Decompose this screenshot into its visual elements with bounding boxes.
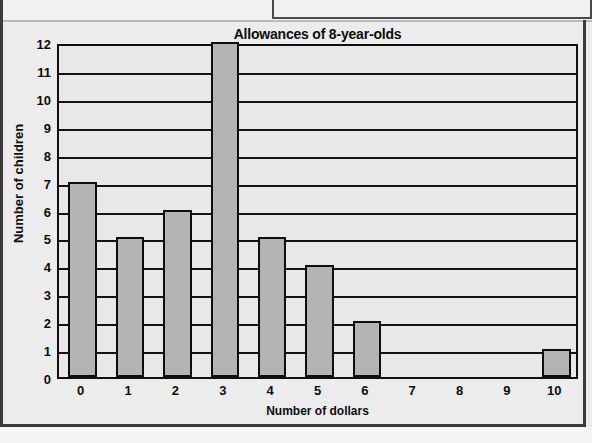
x-axis-tick-labels: 012345678910 <box>57 383 578 403</box>
y-axis-title: Number of children <box>11 94 26 274</box>
bar-5 <box>305 265 333 377</box>
y-tick-label-0: 0 <box>0 372 51 387</box>
x-tick-label-8: 8 <box>456 383 463 398</box>
y-tick-label-6: 6 <box>0 204 51 219</box>
y-tick-label-12: 12 <box>0 37 51 52</box>
y-tick-label-4: 4 <box>0 260 51 275</box>
page-border-top <box>0 20 592 22</box>
bar-10 <box>542 349 570 377</box>
bar-4 <box>258 237 286 377</box>
page-border-right <box>583 20 586 427</box>
bar-3 <box>211 42 239 377</box>
x-tick-label-2: 2 <box>172 383 179 398</box>
bars-layer <box>59 46 576 377</box>
y-tick-label-8: 8 <box>0 148 51 163</box>
y-tick-label-5: 5 <box>0 232 51 247</box>
y-tick-label-10: 10 <box>0 92 51 107</box>
y-tick-label-9: 9 <box>0 120 51 135</box>
x-tick-label-0: 0 <box>77 383 84 398</box>
x-tick-label-3: 3 <box>219 383 226 398</box>
chart-title: Allowances of 8-year-olds <box>57 26 578 42</box>
x-tick-label-1: 1 <box>124 383 131 398</box>
x-axis-title: Number of dollars <box>57 404 578 418</box>
page-canvas: Allowances of 8-year-olds 01234567891011… <box>0 0 592 443</box>
bar-1 <box>116 237 144 377</box>
y-tick-label-11: 11 <box>0 64 51 79</box>
x-tick-label-10: 10 <box>547 383 561 398</box>
plot-area <box>57 44 578 379</box>
y-tick-label-1: 1 <box>0 344 51 359</box>
x-tick-label-4: 4 <box>267 383 274 398</box>
page-margin-bottom <box>0 427 592 443</box>
bar-2 <box>163 210 191 378</box>
y-axis-tick-labels: 0123456789101112 <box>0 44 51 379</box>
y-tick-label-3: 3 <box>0 288 51 303</box>
cropped-box-above-figure <box>272 0 592 19</box>
y-tick-label-2: 2 <box>0 316 51 331</box>
x-tick-label-5: 5 <box>314 383 321 398</box>
bar-6 <box>353 321 381 377</box>
x-tick-label-9: 9 <box>503 383 510 398</box>
bar-0 <box>68 182 96 377</box>
x-tick-label-6: 6 <box>361 383 368 398</box>
x-tick-label-7: 7 <box>409 383 416 398</box>
y-tick-label-7: 7 <box>0 176 51 191</box>
